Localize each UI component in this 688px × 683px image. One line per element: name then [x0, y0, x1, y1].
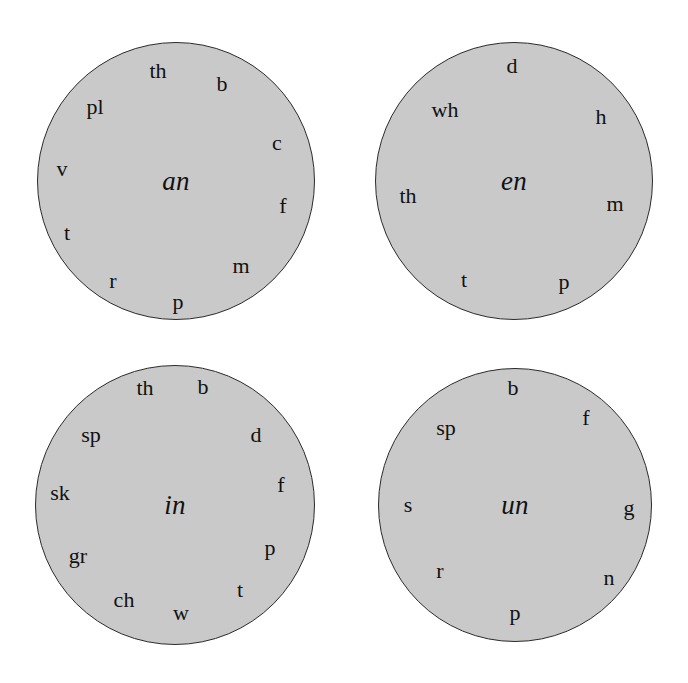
wheel-onset-un-p: p: [510, 600, 521, 626]
word-wheel-figure: anthbplcvftmrpendwhhthmtpinthbspdskfgrpc…: [0, 0, 688, 683]
wheel-onset-an-v: v: [57, 156, 68, 182]
wheel-onset-un-g: g: [624, 495, 635, 521]
wheel-rime-in: in: [164, 490, 186, 521]
wheel-onset-an-pl: pl: [86, 94, 103, 120]
wheel-onset-in-ch: ch: [114, 587, 135, 613]
wheel-onset-an-c: c: [272, 130, 282, 156]
wheel-onset-un-r: r: [436, 558, 443, 584]
wheel-onset-un-f: f: [582, 405, 589, 431]
wheel-onset-an-t: t: [64, 220, 70, 246]
wheel-onset-en-d: d: [507, 53, 518, 79]
wheel-onset-in-th: th: [136, 375, 153, 401]
wheel-onset-en-wh: wh: [432, 97, 459, 123]
wheel-onset-in-d: d: [251, 422, 262, 448]
wheel-onset-an-m: m: [232, 253, 249, 279]
wheel-onset-in-p: p: [265, 535, 276, 561]
wheel-onset-en-th: th: [399, 183, 416, 209]
wheel-onset-in-t: t: [237, 577, 243, 603]
wheel-onset-en-p: p: [559, 269, 570, 295]
wheel-onset-in-w: w: [173, 600, 189, 626]
wheel-onset-in-f: f: [277, 472, 284, 498]
wheel-onset-in-gr: gr: [69, 543, 87, 569]
wheel-onset-in-sp: sp: [81, 422, 101, 448]
wheel-onset-en-h: h: [596, 104, 607, 130]
wheel-onset-un-sp: sp: [436, 415, 456, 441]
wheel-onset-in-sk: sk: [50, 480, 70, 506]
wheel-onset-en-t: t: [461, 267, 467, 293]
wheel-onset-en-m: m: [606, 191, 623, 217]
wheel-onset-un-s: s: [404, 492, 413, 518]
wheel-rime-en: en: [501, 166, 527, 197]
wheel-onset-an-b: b: [217, 71, 228, 97]
wheel-rime-un: un: [501, 490, 529, 521]
wheel-onset-in-b: b: [198, 374, 209, 400]
wheel-onset-an-p: p: [173, 289, 184, 315]
wheel-onset-un-n: n: [604, 565, 615, 591]
wheel-onset-an-th: th: [149, 58, 166, 84]
wheel-onset-an-f: f: [279, 193, 286, 219]
wheel-rime-an: an: [162, 166, 190, 197]
wheel-onset-un-b: b: [508, 375, 519, 401]
wheel-onset-an-r: r: [109, 268, 116, 294]
